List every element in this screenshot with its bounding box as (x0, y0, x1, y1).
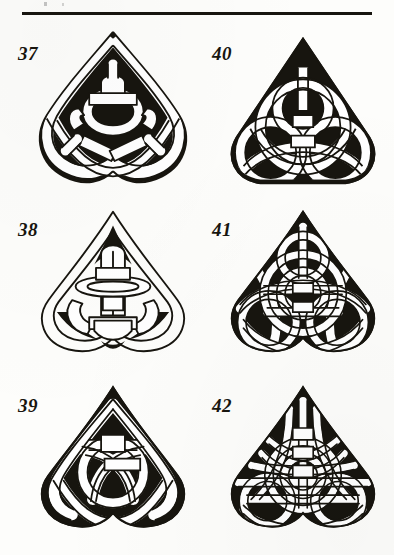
celtic-knot-42 (218, 380, 388, 555)
celtic-knot-40 (218, 26, 388, 206)
celtic-knot-41 (218, 204, 388, 376)
horizontal-rule (22, 12, 372, 15)
celtic-knot-38 (28, 204, 198, 376)
scanned-page: 37 (0, 0, 394, 555)
celtic-knot-39 (28, 380, 198, 555)
celtic-knot-37 (28, 26, 198, 206)
scan-speckle (44, 2, 47, 6)
scan-speckle (62, 3, 64, 6)
